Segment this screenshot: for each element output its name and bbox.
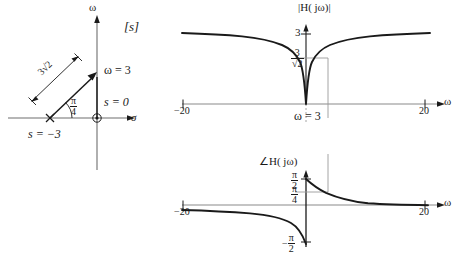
phase-ytick-negpi2-den: 2	[288, 243, 295, 254]
phase-xaxis-label: ω	[444, 197, 451, 208]
magnitude-ytick-num: 3	[291, 48, 304, 58]
phase-plot	[180, 154, 457, 264]
magnitude-ytick-3: 3	[295, 27, 301, 38]
s-plane-zero-label: ω = 3	[104, 64, 131, 76]
s-plane-designator: [s]	[124, 20, 139, 33]
s-plane-point-label: s = −3	[28, 128, 61, 140]
magnitude-notch-label: ω = 3	[294, 110, 321, 122]
magnitude-x-axis	[182, 100, 445, 109]
magnitude-xaxis-label: ω	[444, 96, 451, 107]
s-plane-diagram	[0, 0, 180, 190]
s-plane-angle-label: π 4	[70, 96, 77, 117]
s-plane-angle-num: π	[70, 96, 77, 106]
phase-ytick-neg-pi-over-2: − π 2	[282, 233, 295, 254]
phase-plot-title: ∠H( jω)	[259, 156, 297, 167]
magnitude-xtick-right: 20	[419, 106, 429, 116]
phase-title-text: ∠H( jω)	[259, 155, 297, 167]
phase-guide-lines	[295, 154, 328, 192]
phase-ytick-pi-over-4: π 4	[291, 184, 298, 205]
phase-xtick-right: 20	[419, 207, 429, 217]
figure-root: ω σ [s] ω = 3 s = 0 s = −3 3√2 π 4	[0, 0, 457, 264]
phase-ytick-pi4-den: 4	[291, 194, 298, 205]
s-plane-origin-label: s = 0	[104, 96, 129, 108]
magnitude-title-text: |H( jω)|	[298, 1, 331, 13]
magnitude-ytick-den: √2	[291, 58, 304, 69]
phase-ytick-negpi2-num: π	[288, 233, 295, 243]
magnitude-ytick-3-over-sqrt2: 3 √2	[291, 48, 304, 69]
phase-xtick-left: −20	[174, 207, 190, 217]
magnitude-plot-title: |H( jω)|	[298, 2, 331, 13]
phase-ytick-pi2-num: π	[291, 170, 298, 180]
s-plane-sigma-axis-label: σ	[131, 112, 136, 123]
magnitude-xtick-left: −20	[174, 106, 190, 116]
s-plane-origin-marker	[93, 77, 101, 122]
s-plane-omega-axis-label: ω	[89, 2, 96, 13]
s-plane-angle-den: 4	[70, 106, 77, 117]
phase-ytick-pi4-num: π	[291, 184, 298, 194]
phase-curve-positive	[306, 179, 428, 205]
